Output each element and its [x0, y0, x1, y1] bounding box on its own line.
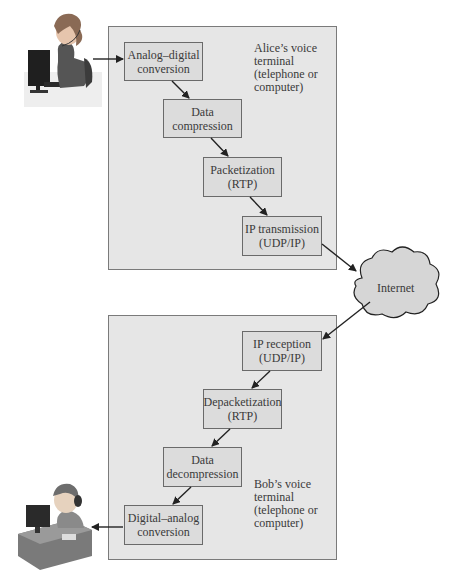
arrow-to-ip-transmission	[250, 197, 267, 215]
boy-at-desk-with-headset-icon	[18, 484, 92, 570]
arrow-to-compression	[172, 81, 189, 98]
arrow-to-ip-reception	[323, 302, 370, 339]
arrow-to-packetization	[211, 138, 228, 156]
internet-label: Internet	[377, 281, 414, 296]
woman-at-computer-with-headset-icon	[24, 14, 102, 107]
arrow-to-decompression	[212, 429, 230, 446]
arrow-to-internet	[322, 244, 356, 271]
arrow-to-dac	[173, 487, 191, 504]
arrow-to-depacketization	[252, 371, 270, 388]
